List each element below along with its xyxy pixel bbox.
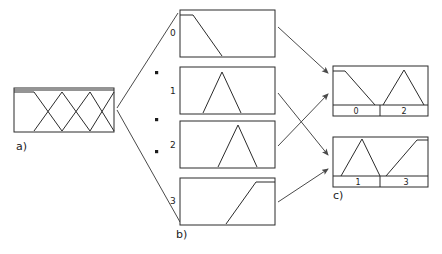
arrow-box-3-to-group-odd	[278, 169, 328, 202]
ellipsis-dot-3	[155, 150, 158, 153]
arrow-box-0-to-group-even	[278, 27, 328, 73]
panel-b-item-3: 3	[170, 178, 275, 225]
panel-a-caption: a)	[16, 140, 27, 153]
panel-b-caption: b)	[176, 228, 187, 241]
panel-b-item-2: 2	[170, 121, 275, 168]
ellipsis-dot-2	[155, 118, 158, 121]
crossing-arrows	[278, 27, 328, 202]
panel-b-box-3	[180, 178, 275, 225]
panel-c-even-tick-0: 0	[353, 107, 358, 116]
panel-b-label-0: 0	[170, 28, 176, 38]
connector-a-to-box-0	[117, 13, 178, 108]
panel-b-box-2	[180, 121, 275, 168]
panel-b-item-1: 1	[170, 67, 275, 114]
panel-c-group-odd: 1 3	[333, 137, 428, 187]
panel-c-odd-tick-1: 1	[355, 178, 360, 187]
diagram-canvas: a) 0 1 2	[0, 0, 442, 254]
fuzzy-membership-diagram: a) 0 1 2	[0, 0, 442, 254]
fanout-connectors	[117, 13, 180, 222]
panel-b: 0 1 2 3 b)	[170, 10, 275, 241]
ellipsis-dot-1	[155, 71, 158, 74]
panel-c: 0 2 1 3 c)	[333, 66, 428, 202]
panel-c-group-even: 0 2	[333, 66, 428, 116]
panel-b-box-1	[180, 67, 275, 114]
panel-b-label-2: 2	[170, 140, 176, 150]
panel-b-label-1: 1	[170, 86, 176, 96]
panel-b-item-0: 0	[170, 10, 275, 57]
ellipsis-dots	[155, 71, 158, 153]
panel-c-even-tick-2: 2	[401, 107, 406, 116]
panel-a: a)	[14, 88, 114, 153]
panel-c-odd-tick-3: 3	[403, 178, 408, 187]
panel-c-caption: c)	[333, 189, 343, 202]
panel-b-label-3: 3	[170, 196, 176, 206]
